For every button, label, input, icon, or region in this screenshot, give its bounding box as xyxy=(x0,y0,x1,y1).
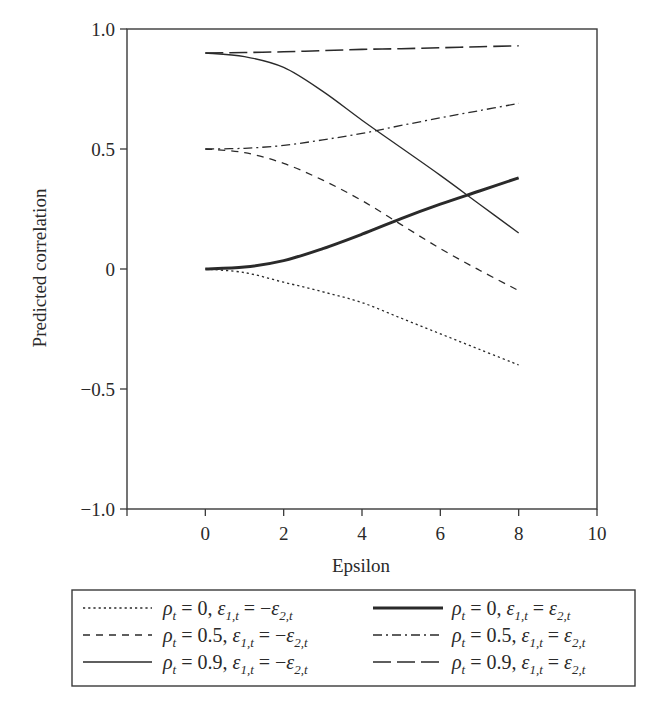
series-line-dotted xyxy=(205,269,518,365)
plot-frame xyxy=(127,29,597,509)
legend: ρt = 0, ε1,t = −ε2,tρt = 0, ε1,t = ε2,tρ… xyxy=(72,590,635,686)
x-tick-label: 8 xyxy=(514,523,524,544)
x-axis-ticks: 0246810 xyxy=(127,509,607,544)
legend-label: ρt = 0.9, ε1,t = −ε2,t xyxy=(162,651,308,677)
x-tick-label: 6 xyxy=(436,523,446,544)
y-tick-label: −0.5 xyxy=(81,379,115,400)
legend-label: ρt = 0, ε1,t = ε2,t xyxy=(451,597,571,623)
chart: 1.00.50−0.5−1.0 0246810 Epsilon Predicte… xyxy=(0,0,672,706)
legend-label: ρt = 0, ε1,t = −ε2,t xyxy=(162,597,293,623)
y-tick-label: −1.0 xyxy=(81,499,115,520)
plot-border xyxy=(127,29,597,509)
series-line-thin-solid xyxy=(205,53,518,233)
legend-label: ρt = 0.5, ε1,t = −ε2,t xyxy=(162,624,308,650)
x-axis-title: Epsilon xyxy=(332,555,391,576)
y-tick-label: 0 xyxy=(106,259,116,280)
series-layer xyxy=(205,46,518,365)
x-tick-label: 4 xyxy=(357,523,367,544)
y-tick-label: 1.0 xyxy=(91,19,115,40)
y-axis-title: Predicted correlation xyxy=(29,188,50,347)
series-line-long-dash xyxy=(205,46,518,53)
y-axis-ticks: 1.00.50−0.5−1.0 xyxy=(81,19,127,520)
x-tick-label: 2 xyxy=(279,523,289,544)
series-line-dash-dot xyxy=(205,103,518,149)
series-line-dashed xyxy=(205,149,518,291)
x-tick-label: 0 xyxy=(201,523,211,544)
legend-label: ρt = 0.5, ε1,t = ε2,t xyxy=(451,624,586,650)
x-tick-label: 10 xyxy=(588,523,607,544)
legend-label: ρt = 0.9, ε1,t = ε2,t xyxy=(451,651,586,677)
y-tick-label: 0.5 xyxy=(91,139,115,160)
series-line-thick-solid xyxy=(205,178,518,269)
